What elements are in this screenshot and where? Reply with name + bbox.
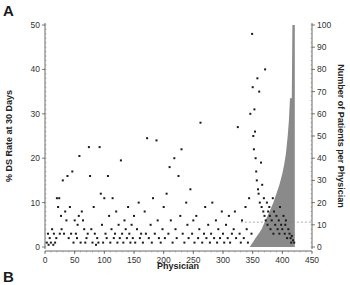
data-point — [291, 235, 293, 237]
data-point — [59, 233, 61, 235]
data-point — [111, 228, 113, 230]
data-point — [211, 202, 213, 204]
data-point — [145, 233, 147, 235]
data-point — [71, 171, 73, 173]
data-point — [95, 244, 97, 246]
data-point — [142, 242, 144, 244]
data-point — [128, 233, 130, 235]
data-point — [261, 184, 263, 186]
y2-tick-label: 30 — [317, 175, 327, 185]
data-point — [195, 215, 197, 217]
data-point — [192, 219, 194, 221]
data-point — [251, 233, 253, 235]
data-point — [140, 233, 142, 235]
data-point — [234, 211, 236, 213]
x-tick-label: 50 — [70, 255, 80, 265]
data-point — [166, 193, 168, 195]
data-point — [49, 237, 51, 239]
y2-axis-title: Number of Patients per Physician — [336, 64, 346, 208]
data-point — [126, 237, 128, 239]
patients-histogram — [250, 25, 295, 247]
y2-tick-label: 0 — [317, 242, 322, 252]
data-point — [210, 233, 212, 235]
data-point — [134, 242, 136, 244]
data-point — [113, 237, 115, 239]
data-point — [280, 224, 282, 226]
data-point — [89, 175, 91, 177]
data-point — [78, 215, 80, 217]
y-axis-title: % DS Rate at 30 Days — [4, 90, 14, 182]
data-point — [231, 233, 233, 235]
data-point — [136, 228, 138, 230]
data-point — [271, 219, 273, 221]
data-point — [160, 242, 162, 244]
panel-label-b: B — [3, 268, 14, 285]
data-point — [268, 206, 270, 208]
data-point — [267, 224, 269, 226]
y-tick-label: 50 — [31, 20, 41, 30]
data-point — [248, 197, 250, 199]
data-point — [283, 215, 285, 217]
data-point — [275, 215, 277, 217]
data-point — [156, 139, 158, 141]
data-point — [54, 242, 56, 244]
data-point — [286, 237, 288, 239]
y2-tick-label: 90 — [317, 42, 327, 52]
data-point — [204, 206, 206, 208]
y2-tick-label: 20 — [317, 198, 327, 208]
data-point — [102, 242, 104, 244]
data-point — [240, 242, 242, 244]
data-point — [270, 228, 272, 230]
x-tick-label: 0 — [43, 255, 48, 265]
data-point — [163, 206, 165, 208]
figure: A B 010203040500102030405060708090100050… — [0, 0, 350, 285]
data-point — [237, 126, 239, 128]
data-point — [260, 162, 262, 164]
data-point — [114, 233, 116, 235]
data-point — [48, 244, 50, 246]
data-point — [191, 233, 193, 235]
panel-label-a: A — [3, 2, 14, 19]
data-point — [200, 122, 202, 124]
data-point — [251, 33, 253, 35]
data-point — [154, 233, 156, 235]
data-point — [284, 233, 286, 235]
data-point — [255, 157, 257, 159]
data-point — [235, 237, 237, 239]
y-tick-label: 40 — [31, 64, 41, 74]
data-point — [75, 233, 77, 235]
data-point — [118, 224, 120, 226]
x-tick-label: 400 — [275, 255, 289, 265]
data-point — [253, 108, 255, 110]
data-point — [74, 219, 76, 221]
data-point — [77, 224, 79, 226]
data-point — [82, 219, 84, 221]
data-point — [76, 237, 78, 239]
data-point — [197, 237, 199, 239]
data-point — [292, 239, 294, 241]
data-point — [253, 148, 255, 150]
data-point — [92, 242, 94, 244]
data-point — [263, 197, 265, 199]
data-point — [50, 242, 52, 244]
data-point — [81, 211, 83, 213]
data-point — [116, 242, 118, 244]
data-point — [103, 197, 105, 199]
y2-tick-label: 10 — [317, 220, 327, 230]
data-point — [164, 237, 166, 239]
data-point — [53, 233, 55, 235]
data-point — [246, 228, 248, 230]
data-point — [265, 219, 267, 221]
data-point — [60, 215, 62, 217]
data-point — [105, 233, 107, 235]
data-point — [262, 211, 264, 213]
data-point — [148, 237, 150, 239]
data-point — [108, 215, 110, 217]
data-point — [162, 228, 164, 230]
data-point — [222, 233, 224, 235]
data-point — [239, 233, 241, 235]
data-point — [112, 197, 114, 199]
y2-tick-label: 50 — [317, 131, 327, 141]
data-point — [68, 237, 70, 239]
data-point — [264, 215, 266, 217]
